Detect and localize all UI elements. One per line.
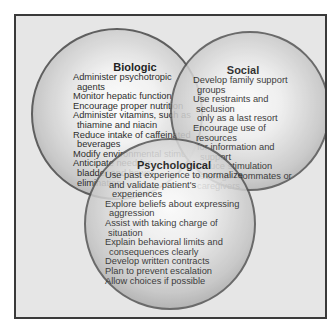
list-item: Allow choices if possible	[105, 277, 243, 287]
list-item: Explore beliefs about expressingaggressi…	[105, 200, 243, 219]
psychological-list: Use past experience to normalizeand vali…	[105, 171, 243, 286]
psychological-circle: Psychological Use past experience to nor…	[84, 138, 256, 310]
diagram-frame: Biologic Administer psychotropicagents M…	[14, 14, 327, 319]
list-item: Explain behavioral limits andconsequence…	[105, 238, 243, 257]
psychological-text: Psychological Use past experience to nor…	[105, 159, 243, 286]
list-item: Develop family supportgroups	[193, 76, 293, 95]
list-item: Assist with taking charge of situation	[105, 219, 243, 238]
list-item: Use restraints and seclusiononly as a la…	[193, 95, 293, 124]
list-item: Use past experience to normalizeand vali…	[105, 171, 243, 200]
